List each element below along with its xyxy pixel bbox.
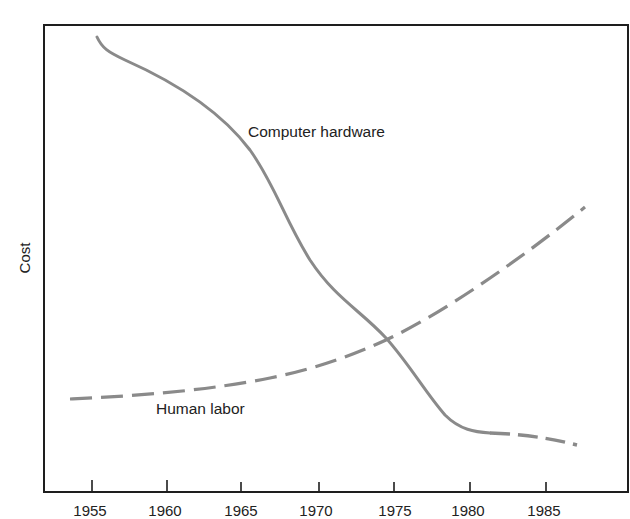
x-axis-ticks (92, 480, 546, 492)
annotation-human-labor: Human labor (156, 400, 245, 417)
tick-label: 1985 (527, 502, 560, 519)
x-axis-labels: 1955 1960 1965 1970 1975 1980 1985 (73, 502, 560, 519)
series-human-labor (70, 207, 585, 399)
tick-label: 1970 (299, 502, 332, 519)
chart-canvas: 1955 1960 1965 1970 1975 1980 1985 Cost … (0, 0, 630, 519)
plot-frame (44, 25, 628, 492)
tick-label: 1960 (148, 502, 181, 519)
series-computer-hardware-projection (490, 433, 577, 445)
annotation-computer-hardware: Computer hardware (248, 123, 385, 140)
tick-label: 1965 (224, 502, 257, 519)
tick-label: 1980 (451, 502, 484, 519)
tick-label: 1975 (378, 502, 411, 519)
tick-label: 1955 (73, 502, 106, 519)
y-axis-label: Cost (16, 242, 33, 274)
